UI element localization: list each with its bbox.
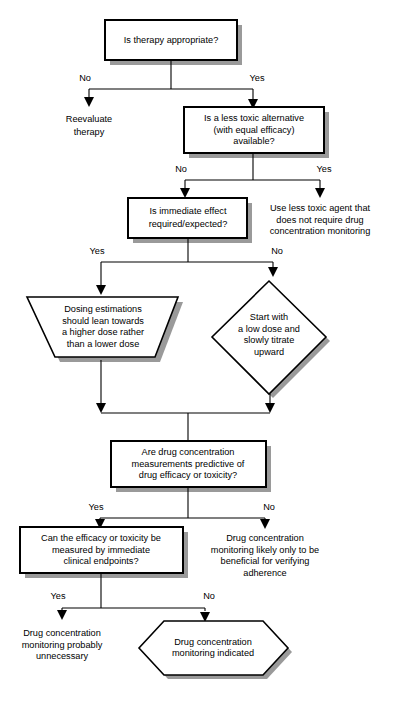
arrowhead-alternative-no xyxy=(180,188,190,198)
edge-label-therapy-yes: Yes xyxy=(250,73,265,83)
node-label-start-low-line3: slowly titrate xyxy=(244,335,295,345)
node-label-q-predictive-line3: drug efficacy or toxicity? xyxy=(139,470,237,480)
node-label-reevaluate-line1: Reevaluate xyxy=(66,114,112,124)
arrowhead-dosing-merge xyxy=(96,403,106,413)
node-label-adherence-only-line3: beneficial for verifying xyxy=(221,556,310,566)
node-label-indicated-line1: Drug concentration xyxy=(174,637,252,647)
edge-label-endpoints-yes: Yes xyxy=(51,591,66,601)
node-label-adherence-only-line4: adherence xyxy=(243,568,286,578)
node-label-start-low-line4: upward xyxy=(254,347,284,357)
edge-label-immediate-yes: Yes xyxy=(90,246,105,256)
arrowhead-therapy-no xyxy=(84,97,94,107)
node-label-dosing-higher-line3: a higher dose rather xyxy=(62,327,144,337)
node-label-adherence-only-line2: monitoring likely only to be xyxy=(211,545,319,555)
node-label-q-alternative-line1: Is a less toxic alternative xyxy=(204,113,304,123)
node-label-q-clinical-endpoints-line2: measured by immediate xyxy=(52,545,150,555)
node-label-dosing-higher-line4: than a lower dose xyxy=(67,339,140,349)
edge-label-alternative-yes: Yes xyxy=(317,164,332,174)
node-label-q-clinical-endpoints-line1: Can the efficacy or toxicity be xyxy=(41,533,161,543)
node-label-dosing-higher-line1: Dosing estimations xyxy=(64,304,142,314)
edge-label-predictive-no: No xyxy=(263,502,275,512)
node-label-q-therapy: Is therapy appropriate? xyxy=(124,35,219,45)
arrowhead-endpoints-yes xyxy=(57,610,67,620)
node-label-q-immediate-line2: required/expected? xyxy=(149,219,228,229)
edge-label-endpoints-no: No xyxy=(203,591,215,601)
node-label-reevaluate-line2: therapy xyxy=(74,127,105,137)
node-label-start-low-line2: a low dose and xyxy=(238,324,300,334)
node-label-q-predictive-line2: measurements predictive of xyxy=(132,459,245,469)
arrowhead-startlow-merge xyxy=(265,403,275,413)
node-label-q-alternative-line2: (with equal efficacy) xyxy=(213,125,294,135)
edge-label-immediate-no: No xyxy=(271,246,283,256)
node-label-unnecessary-line3: unnecessary xyxy=(36,651,88,661)
node-label-use-less-toxic-line3: concentration monitoring xyxy=(270,226,371,236)
node-label-use-less-toxic-line1: Use less toxic agent that xyxy=(270,203,371,213)
arrowhead-alternative-yes xyxy=(315,188,325,198)
flowchart-diagram: Is therapy appropriate? Reevaluate thera… xyxy=(0,0,402,703)
node-label-indicated-line2: monitoring indicated xyxy=(172,648,254,658)
edge-label-predictive-yes: Yes xyxy=(89,502,104,512)
arrowhead-immediate-no xyxy=(268,267,278,277)
node-label-q-alternative-line3: available? xyxy=(233,136,274,146)
node-label-unnecessary-line1: Drug concentration xyxy=(23,628,101,638)
node-label-dosing-higher-line2: should lean towards xyxy=(62,316,144,326)
node-label-unnecessary-line2: monitoring probably xyxy=(22,640,103,650)
arrowhead-immediate-yes xyxy=(96,285,106,295)
flowchart-canvas: Is therapy appropriate? Reevaluate thera… xyxy=(0,0,402,703)
node-label-q-clinical-endpoints-line3: clinical endpoints? xyxy=(63,556,138,566)
node-label-q-immediate-line1: Is immediate effect xyxy=(150,206,227,216)
edge-label-alternative-no: No xyxy=(175,164,187,174)
arrowhead-predictive-no xyxy=(260,519,270,529)
node-label-use-less-toxic-line2: does not require drug xyxy=(276,215,363,225)
edge-label-therapy-no: No xyxy=(79,73,91,83)
node-label-start-low-line1: Start with xyxy=(250,312,288,322)
node-label-adherence-only-line1: Drug concentration xyxy=(226,533,304,543)
node-label-q-predictive-line1: Are drug concentration xyxy=(142,447,235,457)
